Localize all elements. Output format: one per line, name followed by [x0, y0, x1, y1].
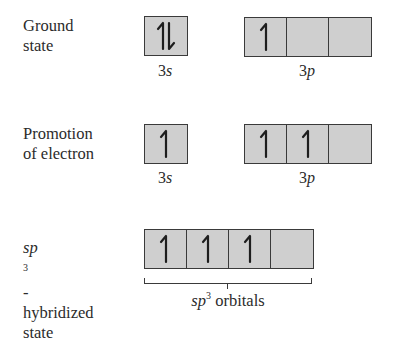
label-line: Promotion [23, 124, 94, 144]
half-arrow-up-icon [294, 128, 322, 160]
orbital-cell [287, 125, 329, 163]
half-arrow-up-icon [194, 233, 222, 265]
ground-3s-label: 3s [144, 62, 186, 80]
orbital-cell-empty [287, 18, 329, 56]
orbital-cell [145, 125, 187, 163]
promotion-3s-label: 3s [144, 169, 186, 187]
orbital-cell [245, 18, 287, 56]
promotion-3s-orbital-box [144, 124, 188, 164]
sp3-orbitals-label: sp3 orbitals [144, 290, 312, 311]
label-line: hybridized [23, 303, 94, 323]
label-line: state [23, 323, 94, 342]
promotion-3p-orbital-box [244, 124, 372, 164]
orbital-cell-empty [329, 18, 371, 56]
label-line: sp3- [23, 238, 94, 303]
sp3-orbital-box [144, 229, 314, 269]
orbital-cell-empty [329, 125, 371, 163]
label-line: of electron [23, 144, 94, 164]
paired-arrows-up-down-icon [152, 20, 180, 52]
promotion-label: Promotion of electron [23, 124, 94, 164]
orbital-cell [187, 230, 229, 268]
half-arrow-up-icon [252, 128, 280, 160]
sp3-bracket-center-tick [227, 284, 228, 289]
ground-3p-orbital-box [244, 17, 372, 57]
ground-3s-orbital-box [144, 16, 188, 56]
half-arrow-up-icon [152, 128, 180, 160]
orbital-cell [145, 230, 187, 268]
orbital-cell [229, 230, 271, 268]
half-arrow-up-icon [252, 21, 280, 53]
sp3-hybridized-label: sp3- hybridized state [23, 238, 94, 342]
orbital-cell [245, 125, 287, 163]
half-arrow-up-icon [236, 233, 264, 265]
orbital-cell-empty [271, 230, 313, 268]
ground-state-label: Ground state [23, 16, 73, 56]
label-line: Ground [23, 16, 73, 36]
ground-3p-label: 3p [244, 62, 370, 80]
label-line: state [23, 36, 73, 56]
half-arrow-up-icon [152, 233, 180, 265]
orbital-cell [145, 17, 187, 55]
promotion-3p-label: 3p [244, 169, 370, 187]
